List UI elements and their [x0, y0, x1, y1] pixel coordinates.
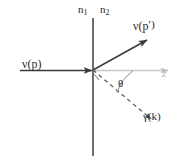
outgoing-neutrino-arrow: [93, 40, 147, 70]
medium-label-n1: n1: [78, 4, 87, 17]
z-axis-label: z: [162, 68, 166, 79]
photon-label: γ(k): [143, 111, 161, 122]
medium-label-n2: n2: [100, 4, 109, 17]
theta-angle-label: θ: [118, 78, 123, 89]
incoming-neutrino-label: ν(p): [22, 58, 41, 70]
outgoing-neutrino-label: ν(p′): [133, 19, 155, 32]
origin-tick: [94, 74, 99, 80]
physics-diagram: n1 n2 ν(p) ν(p′) γ(k) θ z: [0, 0, 178, 166]
